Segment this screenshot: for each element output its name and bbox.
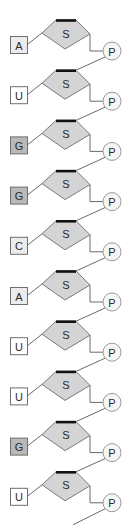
sugar-label: S bbox=[62, 329, 69, 341]
glycosidic-bond-line bbox=[28, 184, 42, 195]
sugar-label: S bbox=[62, 178, 69, 190]
phosphodiester-bond-line bbox=[76, 358, 105, 371]
phosphodiester-bond-line bbox=[76, 157, 105, 170]
phosphodiester-bond-line bbox=[76, 57, 105, 70]
phosphodiester-bond-line bbox=[76, 208, 105, 221]
phosphate-label: P bbox=[108, 196, 115, 208]
phosphate-label: P bbox=[108, 246, 115, 258]
base-label: A bbox=[15, 291, 23, 303]
glycosidic-bond-line bbox=[28, 334, 42, 345]
sugar-label: S bbox=[62, 128, 69, 140]
phosphodiester-bond-line bbox=[76, 258, 105, 271]
nucleotide: USP bbox=[11, 371, 122, 421]
glycosidic-bond-line bbox=[28, 435, 42, 446]
ester-bond-line bbox=[90, 235, 103, 252]
nucleotide: ASP bbox=[11, 20, 122, 70]
base-label: C bbox=[15, 240, 23, 252]
rna-strand-diagram: ASPUSPGSPGSPCSPASPUSPUSPGSPUSP bbox=[0, 0, 129, 530]
base-label: G bbox=[15, 140, 24, 152]
sugar-label: S bbox=[62, 379, 69, 391]
nucleotide: GSP bbox=[11, 171, 122, 221]
ester-bond-line bbox=[90, 335, 103, 352]
nucleotide: USP bbox=[11, 472, 122, 525]
sugar-label: S bbox=[62, 228, 69, 240]
base-label: U bbox=[15, 90, 23, 102]
glycosidic-bond-line bbox=[28, 284, 42, 295]
phosphate-label: P bbox=[108, 297, 115, 309]
nucleotide: GSP bbox=[11, 120, 122, 170]
phosphate-label: P bbox=[108, 497, 115, 509]
ester-bond-line bbox=[90, 34, 103, 51]
sugar-label: S bbox=[62, 78, 69, 90]
nucleotide: USP bbox=[11, 321, 122, 371]
base-label: G bbox=[15, 441, 24, 453]
base-label: A bbox=[15, 40, 23, 52]
glycosidic-bond-line bbox=[28, 133, 42, 144]
base-label: U bbox=[15, 391, 23, 403]
ester-bond-line bbox=[90, 134, 103, 151]
ester-bond-line bbox=[90, 185, 103, 202]
phosphodiester-bond-line bbox=[76, 408, 105, 421]
phosphodiester-bond-line bbox=[76, 107, 105, 120]
ester-bond-line bbox=[90, 285, 103, 302]
nucleotide: CSP bbox=[11, 221, 122, 271]
phosphate-label: P bbox=[108, 447, 115, 459]
glycosidic-bond-line bbox=[28, 83, 42, 94]
phosphate-label: P bbox=[108, 146, 115, 158]
base-label: U bbox=[15, 341, 23, 353]
ester-bond-line bbox=[90, 486, 103, 503]
nucleotide: ASP bbox=[11, 271, 122, 321]
nucleotide-list: ASPUSPGSPGSPCSPASPUSPUSPGSPUSP bbox=[11, 20, 122, 525]
ester-bond-line bbox=[90, 84, 103, 101]
strand-tail-line bbox=[73, 509, 105, 525]
ester-bond-line bbox=[90, 385, 103, 402]
sugar-label: S bbox=[62, 279, 69, 291]
sugar-label: S bbox=[62, 479, 69, 491]
phosphodiester-bond-line bbox=[76, 459, 105, 472]
phosphate-label: P bbox=[108, 397, 115, 409]
glycosidic-bond-line bbox=[28, 33, 42, 44]
sugar-label: S bbox=[62, 28, 69, 40]
phosphate-label: P bbox=[108, 347, 115, 359]
nucleotide: USP bbox=[11, 70, 122, 120]
phosphate-label: P bbox=[108, 46, 115, 58]
nucleotide: GSP bbox=[11, 422, 122, 472]
sugar-label: S bbox=[62, 429, 69, 441]
glycosidic-bond-line bbox=[28, 384, 42, 395]
ester-bond-line bbox=[90, 436, 103, 453]
base-label: G bbox=[15, 190, 24, 202]
glycosidic-bond-line bbox=[28, 485, 42, 496]
phosphate-label: P bbox=[108, 96, 115, 108]
base-label: U bbox=[15, 491, 23, 503]
phosphodiester-bond-line bbox=[76, 308, 105, 321]
glycosidic-bond-line bbox=[28, 234, 42, 245]
